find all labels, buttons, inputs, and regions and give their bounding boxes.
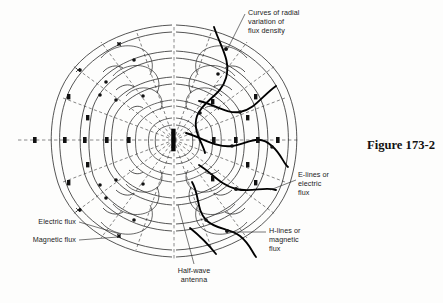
curl-arrow <box>103 66 123 72</box>
cross-marker <box>67 94 70 99</box>
e-field-hairpin <box>126 170 162 192</box>
dot-marker <box>114 98 118 102</box>
antenna-element <box>172 129 176 151</box>
curl-arrow <box>214 190 232 195</box>
cross-marker <box>105 137 109 143</box>
e-field-loop <box>176 58 259 224</box>
cross-marker <box>212 137 216 143</box>
dot-marker <box>230 144 234 148</box>
callout-line: magnetic <box>269 235 300 244</box>
dot-marker <box>104 196 108 200</box>
dot-marker <box>132 218 136 222</box>
callout-magnetic-flux: Magnetic flux <box>0 235 76 244</box>
callout-line: Curves of radial <box>248 8 300 17</box>
leader-electric-flux <box>79 222 120 234</box>
callout-line: Electric flux <box>0 217 76 226</box>
radial-line <box>136 30 174 140</box>
leader-magnetic-flux <box>79 237 118 240</box>
cross-marker <box>86 162 89 167</box>
callout-h-lines: H-lines ormagneticflux <box>269 226 300 253</box>
cross-marker <box>254 94 257 99</box>
dot-marker <box>98 183 102 187</box>
cross-marker <box>67 180 70 185</box>
cross-marker <box>246 162 249 167</box>
callout-line: H-lines or <box>269 226 300 235</box>
figure-number-label: Figure 173-2 <box>367 138 435 153</box>
dot-marker <box>216 72 220 76</box>
radial-line <box>174 30 212 140</box>
cross-marker <box>63 137 67 143</box>
cross-marker <box>234 137 238 143</box>
callout-half-wave-antenna: Half-waveantenna <box>160 266 228 284</box>
dot-marker <box>114 178 118 182</box>
dot-marker <box>225 229 229 233</box>
radial-line <box>73 66 174 140</box>
radial-line <box>63 98 174 140</box>
cross-marker <box>211 176 214 181</box>
callout-line: antenna <box>160 275 228 284</box>
dot-marker <box>204 218 208 222</box>
callout-line: flux <box>269 244 300 253</box>
dot-marker <box>270 145 274 149</box>
cross-marker <box>211 99 214 104</box>
callout-line: Half-wave <box>160 266 228 275</box>
dot-marker <box>132 58 136 62</box>
e-field-loop <box>136 106 173 175</box>
half-wave-antenna <box>172 129 176 151</box>
dot-marker <box>104 80 108 84</box>
dot-marker <box>141 182 145 186</box>
callout-line: flux <box>298 188 329 197</box>
flux-density-curve <box>190 228 216 254</box>
dot-marker <box>198 111 202 115</box>
dot-marker <box>238 110 242 114</box>
dot-marker <box>98 93 102 97</box>
figure-page: Curves of radialvariation offlux density… <box>0 0 443 303</box>
cross-marker <box>254 180 257 185</box>
cross-marker <box>33 137 37 143</box>
callout-line: electric <box>298 179 329 188</box>
cross-marker <box>276 137 280 143</box>
e-field-hairpin <box>126 88 162 110</box>
dot-marker <box>141 94 145 98</box>
callout-e-lines: E-lines orelectricflux <box>298 170 329 197</box>
radial-line <box>73 140 174 214</box>
cross-marker <box>86 115 89 120</box>
curl-arrow <box>129 106 143 110</box>
e-field-hairpin <box>186 170 222 192</box>
callout-line: flux density <box>248 26 300 35</box>
cross-marker <box>83 137 87 143</box>
cross-marker <box>256 137 260 143</box>
leader-half-wave <box>178 205 194 264</box>
callout-line: E-lines or <box>298 170 329 179</box>
callout-curves-of-radial-variation: Curves of radialvariation offlux density <box>248 8 300 35</box>
callout-line: Magnetic flux <box>0 235 76 244</box>
cross-marker <box>127 137 131 143</box>
leader-curves-radial <box>227 14 245 50</box>
callout-electric-flux: Electric flux <box>0 217 76 226</box>
cross-marker <box>246 115 249 120</box>
callout-line: variation of <box>248 17 300 26</box>
radial-line <box>63 140 174 182</box>
radial-line <box>174 140 275 214</box>
radial-line <box>174 66 275 140</box>
curl-arrow <box>116 190 134 195</box>
curl-arrow <box>116 85 134 90</box>
dot-marker <box>234 187 238 191</box>
